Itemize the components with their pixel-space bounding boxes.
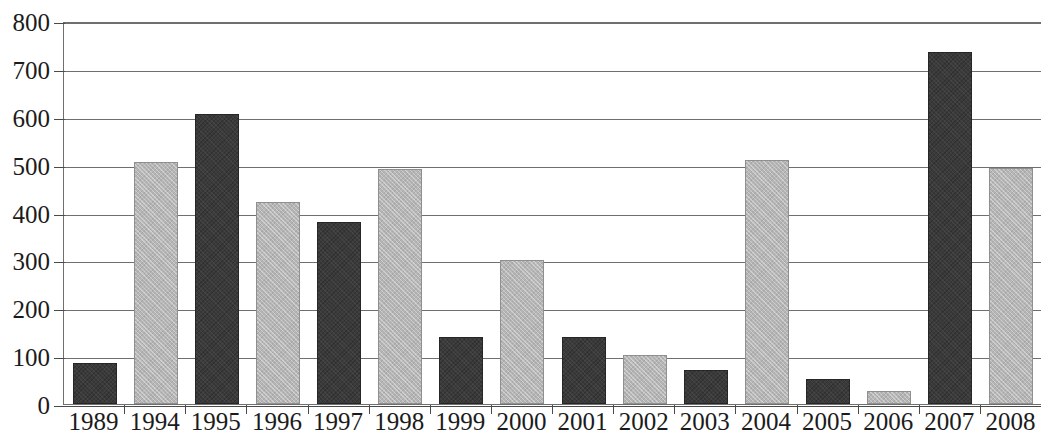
bar-1996 bbox=[256, 202, 300, 405]
x-axis-tick-label: 2000 bbox=[491, 409, 552, 434]
bar-2002 bbox=[623, 355, 667, 404]
bar-2003 bbox=[684, 370, 728, 404]
x-axis-tick-label: 1995 bbox=[185, 409, 246, 434]
bar-2007 bbox=[928, 52, 972, 404]
y-axis-tick-label: 0 bbox=[0, 393, 50, 418]
plot-area bbox=[63, 22, 1041, 405]
bar-2008 bbox=[989, 168, 1033, 404]
bar-chart: 0100200300400500600700800 19891994199519… bbox=[0, 0, 1041, 434]
bar-1997 bbox=[317, 222, 361, 404]
x-axis-tick-label: 2001 bbox=[552, 409, 613, 434]
y-axis-tick-label: 500 bbox=[0, 154, 50, 179]
bar-2006 bbox=[867, 391, 911, 404]
x-axis-labels: 1989199419951996199719981999200020012002… bbox=[63, 409, 1041, 434]
x-axis-tick-label: 1989 bbox=[63, 409, 124, 434]
x-axis-tick-label: 2003 bbox=[674, 409, 735, 434]
bar-2004 bbox=[745, 160, 789, 404]
bar-2001 bbox=[562, 337, 606, 404]
x-axis-tick-label: 1998 bbox=[369, 409, 430, 434]
x-axis-tick-label: 1999 bbox=[430, 409, 491, 434]
x-axis-tick-label: 2008 bbox=[980, 409, 1041, 434]
bar-1999 bbox=[439, 337, 483, 404]
y-axis-tick-label: 800 bbox=[0, 10, 50, 35]
x-axis-tick-label: 2007 bbox=[919, 409, 980, 434]
y-axis-tick-label: 700 bbox=[0, 58, 50, 83]
bars-container bbox=[64, 23, 1041, 404]
bar-1998 bbox=[378, 169, 422, 404]
bar-2005 bbox=[806, 379, 850, 404]
x-axis-tick-label: 1997 bbox=[308, 409, 369, 434]
bar-1994 bbox=[134, 162, 178, 404]
x-axis-tick-label: 2006 bbox=[858, 409, 919, 434]
y-axis-tick-label: 400 bbox=[0, 202, 50, 227]
x-axis-tick-label: 2004 bbox=[735, 409, 796, 434]
bar-2000 bbox=[500, 260, 544, 404]
y-axis-tick-label: 200 bbox=[0, 297, 50, 322]
x-axis-tick-label: 2005 bbox=[797, 409, 858, 434]
bar-1995 bbox=[195, 114, 239, 404]
y-axis-tick-label: 300 bbox=[0, 249, 50, 274]
x-axis-tick-label: 1994 bbox=[124, 409, 185, 434]
y-axis-tick-label: 600 bbox=[0, 106, 50, 131]
x-axis-tick-label: 2002 bbox=[613, 409, 674, 434]
bar-1989 bbox=[73, 363, 117, 404]
y-axis-tick-label: 100 bbox=[0, 345, 50, 370]
x-axis-tick-label: 1996 bbox=[246, 409, 307, 434]
